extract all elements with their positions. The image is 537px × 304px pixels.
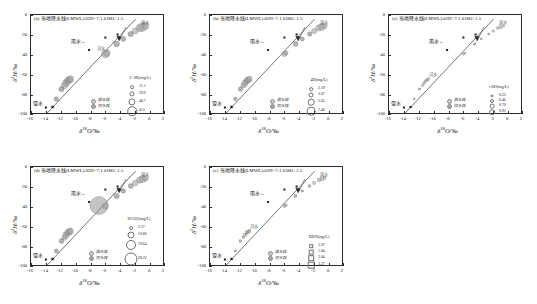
size-legend-title-b: 4H(mg/L): [299, 78, 339, 82]
panel-e: (e) 当地降水线(LMWL):δ2H=7.1 δ18O+1.5 雨水← 雪水 …: [179, 152, 358, 302]
size-legend-value-b-0: 2.19: [318, 87, 325, 91]
x-axis-title-d: δ18O/‰: [0, 278, 179, 286]
y-axis-title-b: δ2H/‰: [189, 64, 197, 82]
size-legend-square-e-0: [309, 244, 313, 248]
size-legend-value-d-3: 28.32: [138, 257, 147, 261]
size-legend-bubble-c-1: [490, 99, 494, 103]
size-legend-value-e-3: 3.27: [318, 263, 325, 267]
annotation-snow-a: 雪水: [33, 99, 43, 106]
category-legend-item-d-1: 河水样: [89, 256, 108, 261]
annotation-snow-d: 雪水: [33, 251, 43, 258]
size-legend-bubble-c-0: [490, 95, 493, 98]
size-legend-bubble-d-0: [129, 226, 133, 230]
size-legend-value-d-2: 19.64: [138, 243, 147, 247]
annotation-spring-e: 泉水: [320, 171, 328, 177]
annotation-river-c: 河水: [429, 71, 437, 77]
category-legend-b: 湖水样 河水样: [270, 98, 289, 109]
size-legend-square-e-2: [308, 255, 314, 261]
category-legend-e: 湖水样 河水样: [268, 250, 287, 261]
plot-frame-b: (b) 当地降水线(LMWL):δ2H=7.1 δ18O+1.5 雨水← 雪水 …: [209, 14, 343, 114]
size-legend-value-b-2: 5.65: [318, 100, 325, 104]
panel-c: (c) 当地降水线(LMWL):δ2H=7.1 δ18O+1.5 雨水← 雪水 …: [358, 0, 537, 150]
category-legend-item-c-1: 河水样: [447, 104, 466, 109]
size-legend-bubble-a-1: [129, 92, 134, 97]
annotation-river-a: 河水: [97, 45, 105, 51]
size-legend-bubble-b-1: [309, 93, 314, 98]
category-legend-d: 湖水样 河水样: [89, 250, 108, 261]
lake-marker-icon-a: [91, 99, 96, 104]
annotation-rain-a: 雨水←: [71, 37, 86, 44]
annotation-snow-c: 雪水: [391, 99, 401, 106]
x-axis-title-a: δ18O/‰: [0, 126, 179, 134]
y-axis-title-e: δ2H/‰: [189, 216, 197, 234]
lmwl-equation-text-a: 当地降水线(LMWL):δ2H=7.1 δ18O+1.5: [41, 16, 124, 21]
size-legend-value-b-3: 7.40: [318, 109, 325, 113]
river-marker-icon-e: [268, 256, 273, 261]
x-axis-title-c: δ18O/‰: [358, 126, 537, 134]
river-marker-icon-b: [270, 104, 275, 109]
annotation-rain-d: 雨水←: [71, 189, 86, 196]
size-legend-square-e-1: [309, 250, 314, 255]
size-legend-value-c-3: 0.93: [499, 110, 506, 114]
plot-frame-a: (a) 当地降水线(LMWL):δ2H=7.1 δ18O+1.5 雨水← 雪水 …: [30, 14, 164, 114]
category-legend-item-e-1: 河水样: [268, 256, 287, 261]
size-legend-value-d-0: 2.27: [138, 226, 145, 230]
lmwl-equation-a: (a) 当地降水线(LMWL):δ2H=7.1 δ18O+1.5: [34, 17, 123, 22]
panel-d: (d) 当地降水线(LMWL):δ2H=7.1 δ18O+1.5 雨水← 雪水 …: [0, 152, 179, 302]
lmwl-equation-text-e: 当地降水线(LMWL):δ2H=7.1 δ18O+1.5: [220, 168, 303, 173]
lmwl-equation-d: (d) 当地降水线(LMWL):δ2H=7.1 δ18O+1.5: [34, 169, 123, 174]
size-legend-value-a-3: 415: [139, 109, 145, 113]
panel-a: (a) 当地降水线(LMWL):δ2H=7.1 δ18O+1.5 雨水← 雪水 …: [0, 0, 179, 150]
size-legend-title-d: HCO3(mg/L): [117, 217, 161, 221]
annotation-spring-c: 泉水: [499, 19, 507, 25]
size-legend-e: DDTs(ng/L) 1.07 1.84 2.04 3.27: [299, 235, 339, 261]
lmwl-equation-b: (b) 当地降水线(LMWL):δ2H=7.1 δ18O+1.5: [213, 17, 302, 22]
size-legend-value-a-1: 29.9: [139, 92, 146, 96]
x-axis-title-e: δ18O/‰: [179, 278, 358, 286]
size-legend-value-a-2: 40.7: [139, 100, 146, 104]
annotation-rain-b: 雨水←: [250, 37, 265, 44]
size-legend-title-c: t-6H(mg/L): [480, 85, 518, 89]
category-label-c-1: 河水样: [454, 104, 466, 109]
annotation-spring-d: 泉水: [141, 171, 149, 177]
size-legend-value-e-0: 1.07: [318, 244, 325, 248]
lmwl-equation-text-c: 当地降水线(LMWL):δ2H=7.1 δ18O+1.5: [399, 16, 482, 21]
panel-b: (b) 当地降水线(LMWL):δ2H=7.1 δ18O+1.5 雨水← 雪水 …: [179, 0, 358, 150]
lake-marker-icon-d: [89, 251, 94, 256]
size-legend-bubble-b-2: [308, 99, 315, 106]
size-legend-value-c-2: 0.70: [499, 104, 506, 108]
size-legend-value-b-1: 3.07: [318, 93, 325, 97]
size-legend-b: 4H(mg/L) 2.19 3.07 5.65 7.40: [299, 78, 339, 110]
category-label-e-1: 河水样: [275, 256, 287, 261]
category-label-a-1: 河水样: [98, 104, 110, 109]
lmwl-equation-c: (c) 当地降水线(LMWL):δ2H=7.1 δ18O+1.5: [392, 17, 481, 22]
size-legend-bubble-d-2: [126, 240, 136, 250]
annotation-snow-e: 雪水: [212, 251, 222, 258]
river-marker-icon-d: [89, 256, 94, 261]
size-legend-bubble-c-2: [490, 104, 495, 109]
lake-marker-icon-e: [268, 251, 273, 256]
size-legend-bubble-d-1: [128, 232, 135, 239]
x-axis-title-b: δ18O/‰: [179, 126, 358, 134]
river-marker-icon-c: [447, 104, 452, 109]
river-marker-icon-a: [91, 104, 96, 109]
y-axis-title-d: δ2H/‰: [10, 216, 18, 234]
series-river-c: [413, 33, 490, 100]
size-legend-bubble-b-0: [309, 87, 313, 91]
lmwl-equation-e: (e) 当地降水线(LMWL):δ2H=7.1 δ18O+1.5: [213, 169, 302, 174]
size-legend-c: t-6H(mg/L) 0.23 0.46 0.70 0.93: [480, 85, 518, 109]
y-axis-title-a: δ2H/‰: [10, 64, 18, 82]
size-legend-value-a-0: 11.1: [139, 85, 146, 89]
size-legend-title-e: DDTs(ng/L): [299, 235, 339, 239]
lmwl-equation-text-b: 当地降水线(LMWL):δ2H=7.1 δ18O+1.5: [220, 16, 303, 21]
plot-frame-e: (e) 当地降水线(LMWL):δ2H=7.1 δ18O+1.5 雨水← 雪水 …: [209, 166, 343, 266]
figure-grid: (a) 当地降水线(LMWL):δ2H=7.1 δ18O+1.5 雨水← 雪水 …: [0, 0, 537, 304]
category-label-d-1: 河水样: [96, 256, 108, 261]
annotation-spring-b: 泉水: [320, 19, 328, 25]
size-legend-title-a: 2+SR(mg/L): [120, 76, 160, 80]
annotation-snow-b: 雪水: [212, 99, 222, 106]
category-label-b-1: 河水样: [277, 104, 289, 109]
annotation-river-e: 河水: [250, 223, 258, 229]
y-axis-title-c: δ2H/‰: [368, 64, 376, 82]
category-legend-item-b-1: 河水样: [270, 104, 289, 109]
